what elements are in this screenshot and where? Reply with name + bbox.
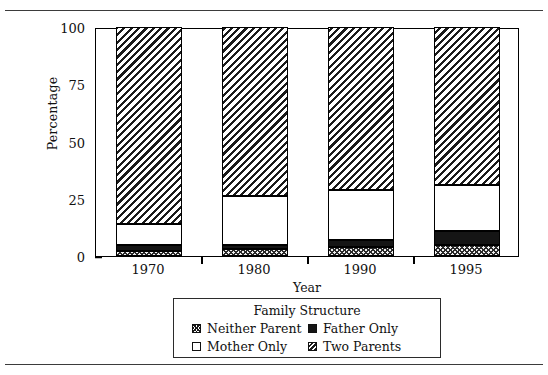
bar-segment-two-parents bbox=[222, 27, 288, 196]
x-tick-label: 1980 bbox=[214, 262, 294, 277]
x-axis-title: Year bbox=[95, 280, 519, 295]
x-tick-mark bbox=[201, 257, 203, 264]
x-tick-label: 1990 bbox=[320, 262, 400, 277]
figure: Percentage 0255075100 1970198019901995 Y… bbox=[0, 0, 548, 375]
bar-segment-father-only bbox=[222, 245, 288, 250]
legend-swatch-father-only-icon bbox=[308, 324, 317, 333]
bar-segment-mother-only bbox=[328, 190, 394, 240]
bar-1980 bbox=[222, 27, 288, 256]
legend-label-two-parents: Two Parents bbox=[323, 339, 401, 354]
legend-item-father-only: Father Only bbox=[308, 321, 424, 336]
y-tick-label: 25 bbox=[49, 192, 85, 207]
legend-item-mother-only: Mother Only bbox=[192, 339, 308, 354]
x-tick-label: 1970 bbox=[108, 262, 188, 277]
legend-swatch-neither-parent-icon bbox=[192, 324, 201, 333]
bar-segment-mother-only bbox=[222, 196, 288, 244]
bar-segment-two-parents bbox=[328, 27, 394, 190]
bar-segment-mother-only bbox=[434, 185, 500, 231]
legend-swatch-mother-only-icon bbox=[192, 342, 201, 351]
y-tick-label: 100 bbox=[49, 21, 85, 36]
legend-label-mother-only: Mother Only bbox=[207, 339, 287, 354]
bar-1995 bbox=[434, 27, 500, 256]
legend: Family Structure Neither Parent Father O… bbox=[173, 298, 441, 358]
clipped-caption bbox=[36, 0, 456, 8]
bar-1970 bbox=[116, 27, 182, 256]
bar-segment-father-only bbox=[116, 245, 182, 252]
bar-segment-neither-parent bbox=[222, 249, 288, 256]
bar-segment-two-parents bbox=[116, 27, 182, 224]
bar-segment-mother-only bbox=[116, 224, 182, 245]
y-tick-label: 50 bbox=[49, 135, 85, 150]
bar-segment-neither-parent bbox=[116, 251, 182, 256]
bar-segment-neither-parent bbox=[328, 247, 394, 256]
legend-title: Family Structure bbox=[174, 303, 440, 318]
y-tick-label: 0 bbox=[49, 250, 85, 265]
bar-segment-father-only bbox=[328, 240, 394, 247]
bar-segment-father-only bbox=[434, 231, 500, 245]
bar-segment-neither-parent bbox=[434, 245, 500, 256]
legend-label-neither-parent: Neither Parent bbox=[207, 321, 302, 336]
plot-area bbox=[95, 28, 519, 257]
bar-1990 bbox=[328, 27, 394, 256]
figure-top-rule bbox=[5, 10, 543, 11]
y-tick-label: 75 bbox=[49, 78, 85, 93]
figure-bottom-rule bbox=[5, 364, 543, 365]
legend-item-neither-parent: Neither Parent bbox=[192, 321, 308, 336]
y-axis-title: Percentage bbox=[45, 54, 60, 174]
legend-item-two-parents: Two Parents bbox=[308, 339, 424, 354]
legend-items: Neither Parent Father Only Mother Only T… bbox=[174, 321, 440, 354]
legend-label-father-only: Father Only bbox=[323, 321, 398, 336]
legend-swatch-two-parents-icon bbox=[308, 342, 317, 351]
x-tick-label: 1995 bbox=[426, 262, 506, 277]
bar-segment-two-parents bbox=[434, 27, 500, 185]
x-tick-mark bbox=[307, 257, 309, 264]
x-tick-mark bbox=[413, 257, 415, 264]
